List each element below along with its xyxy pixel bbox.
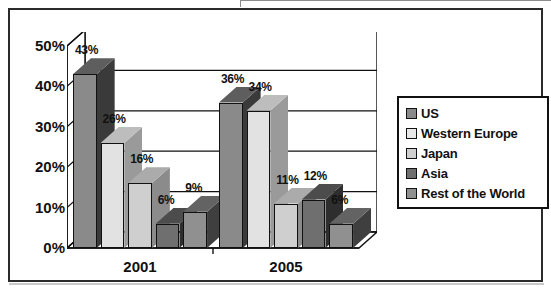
frame-shadow bbox=[9, 283, 544, 285]
legend-item-label: Japan bbox=[421, 146, 458, 161]
bar-column bbox=[219, 87, 243, 248]
clipped-page-text-strip: ues of Asia will increase. bbox=[0, 0, 551, 7]
legend-item-label: Western Europe bbox=[421, 126, 518, 141]
bar-value-label: 26% bbox=[103, 112, 126, 126]
bar-column bbox=[73, 58, 97, 248]
bar-front-face bbox=[156, 224, 180, 248]
y-tick-label: 40% bbox=[35, 78, 65, 93]
plot-area: 43%26%16%6%9%36%34%11%12%6% bbox=[67, 32, 377, 254]
y-tick-label: 10% bbox=[35, 200, 65, 215]
clipped-text: ues of Asia will increase. bbox=[268, 0, 540, 3]
bar-front-face bbox=[183, 212, 207, 248]
bar-value-label: 6% bbox=[158, 193, 175, 207]
y-tick-label: 30% bbox=[35, 119, 65, 134]
bar-column bbox=[329, 208, 353, 248]
legend-swatch-icon bbox=[406, 188, 417, 199]
bar-value-label: 11% bbox=[276, 173, 298, 187]
figure-frame: 0%10%20%30%40%50% 43%26%16%6%9%36%34%11%… bbox=[8, 8, 543, 282]
y-tick-label: 50% bbox=[35, 38, 65, 53]
x-category-label: 2001 bbox=[100, 258, 180, 275]
bar-column bbox=[128, 167, 152, 248]
bar-value-label: 16% bbox=[130, 152, 153, 166]
bar-front-face bbox=[302, 200, 326, 248]
bar-front-face bbox=[128, 183, 152, 248]
bar-value-label: 36% bbox=[221, 72, 244, 86]
bar-column bbox=[247, 95, 271, 248]
bar-value-label: 34% bbox=[249, 80, 272, 94]
y-axis: 0%10%20%30%40%50% bbox=[10, 32, 65, 254]
bar-column bbox=[274, 188, 298, 248]
y-tick-label: 0% bbox=[43, 240, 65, 255]
legend-item-label: Asia bbox=[421, 166, 448, 181]
legend-item-us: US bbox=[406, 103, 547, 123]
legend-swatch-icon bbox=[406, 128, 417, 139]
legend-item-label: US bbox=[421, 106, 439, 121]
bar-value-label: 6% bbox=[331, 193, 348, 207]
bar-front-face bbox=[247, 111, 271, 248]
bar-value-label: 43% bbox=[75, 43, 98, 57]
bar-value-label: 9% bbox=[185, 181, 202, 195]
x-category-label: 2005 bbox=[246, 258, 326, 275]
bar-front-face bbox=[101, 143, 125, 248]
y-tick-label: 20% bbox=[35, 159, 65, 174]
legend-item-western-europe: Western Europe bbox=[406, 123, 547, 143]
bar-column bbox=[156, 208, 180, 248]
bar-value-label: 12% bbox=[304, 169, 327, 183]
legend-swatch-icon bbox=[406, 148, 417, 159]
bar-column bbox=[302, 184, 326, 248]
bar-front-face bbox=[73, 74, 97, 248]
bar-column bbox=[183, 196, 207, 248]
legend-item-asia: Asia bbox=[406, 163, 547, 183]
bar-front-face bbox=[329, 224, 353, 248]
legend-item-label: Rest of the World bbox=[421, 186, 525, 201]
legend-item-rest-of-the-world: Rest of the World bbox=[406, 183, 547, 203]
bar-column bbox=[101, 127, 125, 248]
bar-front-face bbox=[219, 103, 243, 248]
chart-legend: USWestern EuropeJapanAsiaRest of the Wor… bbox=[397, 96, 549, 209]
legend-item-japan: Japan bbox=[406, 143, 547, 163]
scan-rule-vertical bbox=[240, 0, 241, 7]
bar-front-face bbox=[274, 204, 298, 248]
legend-swatch-icon bbox=[406, 108, 417, 119]
legend-swatch-icon bbox=[406, 168, 417, 179]
